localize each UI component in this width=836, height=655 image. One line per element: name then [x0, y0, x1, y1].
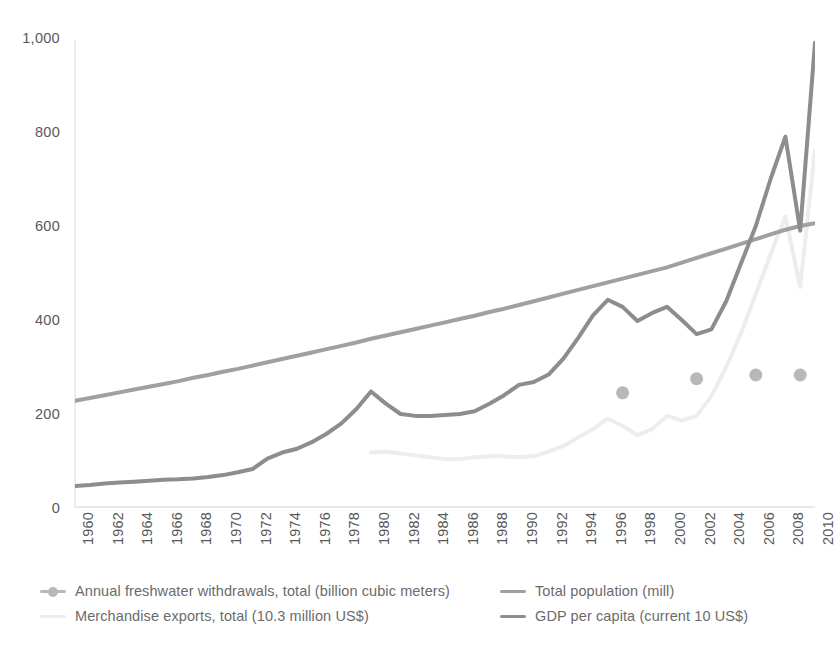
legend-item[interactable]: Merchandise exports, total (10.3 million… — [40, 608, 369, 624]
scatter-point — [794, 368, 807, 381]
x-tick-label: 1960 — [80, 512, 96, 545]
line-series — [75, 43, 815, 486]
x-tick-label: 1998 — [642, 512, 658, 545]
y-tick-label: 200 — [35, 406, 60, 422]
scatter-point — [616, 386, 629, 399]
legend-item[interactable]: Total population (mill) — [500, 583, 674, 599]
legend-item-label: Annual freshwater withdrawals, total (bi… — [75, 583, 450, 599]
x-axis-line — [75, 506, 815, 508]
y-tick-label: 800 — [35, 124, 60, 140]
x-tick-label: 2002 — [702, 512, 718, 545]
x-tick-label: 2010 — [820, 512, 836, 545]
x-tick-label: 2004 — [731, 512, 747, 545]
chart-legend: Annual freshwater withdrawals, total (bi… — [40, 583, 820, 643]
x-tick-label: 2008 — [790, 512, 806, 545]
legend-item-label: Merchandise exports, total (10.3 million… — [75, 608, 369, 624]
y-tick-label: 600 — [35, 218, 60, 234]
scatter-point — [749, 368, 762, 381]
x-tick-label: 1988 — [494, 512, 510, 545]
x-tick-label: 2000 — [672, 512, 688, 545]
x-tick-label: 1984 — [435, 512, 451, 545]
legend-dot-marker-icon — [40, 584, 66, 598]
legend-item-label: GDP per capita (current 10 US$) — [535, 608, 748, 624]
line-series — [371, 151, 815, 459]
scatter-point — [690, 372, 703, 385]
x-tick-label: 1994 — [583, 512, 599, 545]
x-tick-label: 1990 — [524, 512, 540, 545]
line-series — [75, 223, 815, 401]
y-tick-label: 400 — [35, 312, 60, 328]
plot-svg — [75, 38, 815, 508]
x-tick-label: 1964 — [139, 512, 155, 545]
x-tick-label: 1986 — [465, 512, 481, 545]
y-axis: 02004006008001,000 — [0, 38, 68, 508]
x-tick-label: 1962 — [110, 512, 126, 545]
x-tick-label: 1982 — [406, 512, 422, 545]
legend-line-marker-icon — [40, 609, 66, 623]
legend-line-marker-icon — [500, 584, 526, 598]
y-tick-label: 1,000 — [22, 30, 60, 46]
x-axis: 1960196219641966196819701972197419761978… — [75, 512, 815, 574]
legend-line-marker-icon — [500, 609, 526, 623]
x-tick-label: 2006 — [761, 512, 777, 545]
x-tick-label: 1976 — [317, 512, 333, 545]
y-tick-label: 0 — [52, 500, 60, 516]
x-tick-label: 1996 — [613, 512, 629, 545]
x-tick-label: 1968 — [198, 512, 214, 545]
x-tick-label: 1972 — [258, 512, 274, 545]
x-tick-label: 1992 — [554, 512, 570, 545]
plot-area — [75, 38, 815, 508]
x-tick-label: 1974 — [287, 512, 303, 545]
legend-item[interactable]: GDP per capita (current 10 US$) — [500, 608, 748, 624]
legend-item-label: Total population (mill) — [535, 583, 674, 599]
x-tick-label: 1980 — [376, 512, 392, 545]
x-tick-label: 1966 — [169, 512, 185, 545]
x-tick-label: 1970 — [228, 512, 244, 545]
x-tick-label: 1978 — [346, 512, 362, 545]
legend-item[interactable]: Annual freshwater withdrawals, total (bi… — [40, 583, 450, 599]
